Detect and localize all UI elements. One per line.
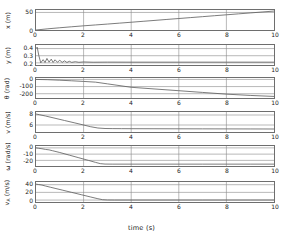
x-tick-label: 0 [33, 100, 37, 106]
y-tick-label: 6 [29, 122, 33, 128]
y-tick-label: 0 [29, 76, 33, 82]
x-axis-ticks-y-position: 0246810 [35, 67, 275, 77]
x-tick-label: 4 [129, 32, 133, 38]
x-tick-label: 4 [129, 100, 133, 106]
panel-x-position: x (m)0500246810 [0, 9, 283, 31]
y-tick-label: -200 [19, 91, 33, 97]
x-tick-label: 10 [271, 168, 279, 174]
x-axis-label: time (s) [0, 224, 283, 232]
x-tick-label: 2 [81, 100, 85, 106]
y-tick-label: 50 [25, 9, 33, 15]
x-tick-label: 6 [177, 67, 181, 73]
x-axis-ticks-va-speed: 0246810 [35, 204, 275, 214]
x-tick-label: 0 [33, 168, 37, 174]
x-tick-label: 10 [271, 204, 279, 210]
panel-va-speed: vA (m/s)020400246810 [0, 181, 283, 203]
x-tick-label: 6 [177, 204, 181, 210]
y-axis-ticks-va-speed: 02040 [12, 181, 34, 203]
x-tick-label: 8 [225, 204, 229, 210]
x-tick-label: 8 [225, 168, 229, 174]
x-tick-label: 2 [81, 204, 85, 210]
y-axis-ticks-speed-v: 68 [12, 111, 34, 133]
y-tick-label: 8 [29, 111, 33, 117]
plot-area-theta-angle [35, 77, 275, 99]
panel-theta-angle: θ (rad)0-100-2000246810 [0, 77, 283, 99]
x-tick-label: 4 [129, 204, 133, 210]
y-tick-label: 0.4 [23, 45, 33, 51]
x-tick-label: 10 [271, 67, 279, 73]
y-tick-label: -100 [19, 83, 33, 89]
x-tick-label: 2 [81, 67, 85, 73]
x-tick-label: 0 [33, 204, 37, 210]
x-tick-label: 10 [271, 32, 279, 38]
x-axis-ticks-speed-v: 0246810 [35, 134, 275, 144]
multi-panel-time-series-figure: x (m)0500246810y (m)0.20.30.40246810θ (r… [0, 0, 283, 243]
x-tick-label: 2 [81, 168, 85, 174]
x-tick-label: 0 [33, 32, 37, 38]
x-tick-label: 6 [177, 32, 181, 38]
y-tick-label: 20 [25, 189, 33, 195]
y-axis-ticks-omega-angular-velocity: 0-10-20 [12, 145, 34, 167]
x-tick-label: 4 [129, 168, 133, 174]
y-tick-label: 0.3 [23, 53, 33, 59]
panel-omega-angular-velocity: ω (rad/s)0-10-200246810 [0, 145, 283, 167]
y-tick-label: -20 [23, 158, 33, 164]
plot-area-omega-angular-velocity [35, 145, 275, 167]
x-tick-label: 2 [81, 32, 85, 38]
x-axis-ticks-theta-angle: 0246810 [35, 100, 275, 110]
y-tick-label: 0.2 [23, 61, 33, 67]
x-tick-label: 8 [225, 32, 229, 38]
x-tick-label: 6 [177, 168, 181, 174]
plot-area-va-speed [35, 181, 275, 203]
y-axis-ticks-y-position: 0.20.30.4 [12, 44, 34, 66]
x-tick-label: 8 [225, 134, 229, 140]
x-tick-label: 8 [225, 100, 229, 106]
y-axis-ticks-x-position: 050 [12, 9, 34, 31]
plot-area-y-position [35, 44, 275, 66]
y-tick-label: 40 [25, 181, 33, 187]
x-tick-label: 8 [225, 67, 229, 73]
x-axis-ticks-omega-angular-velocity: 0246810 [35, 168, 275, 178]
plot-area-speed-v [35, 111, 275, 133]
panel-y-position: y (m)0.20.30.40246810 [0, 44, 283, 66]
x-tick-label: 6 [177, 100, 181, 106]
x-tick-label: 10 [271, 134, 279, 140]
x-axis-ticks-x-position: 0246810 [35, 32, 275, 42]
y-axis-ticks-theta-angle: 0-100-200 [12, 77, 34, 99]
x-tick-label: 4 [129, 134, 133, 140]
x-tick-label: 2 [81, 134, 85, 140]
x-tick-label: 10 [271, 100, 279, 106]
x-tick-label: 0 [33, 134, 37, 140]
x-tick-label: 6 [177, 134, 181, 140]
x-tick-label: 4 [129, 67, 133, 73]
panel-speed-v: v (m/s)680246810 [0, 111, 283, 133]
plot-area-x-position [35, 9, 275, 31]
x-tick-label: 0 [33, 67, 37, 73]
